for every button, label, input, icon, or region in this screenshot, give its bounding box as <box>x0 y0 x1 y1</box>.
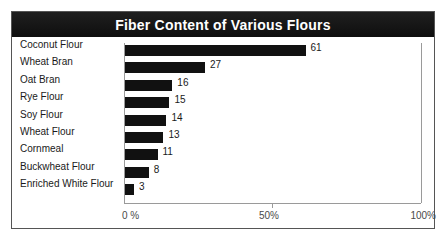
chart-title: Fiber Content of Various Flours <box>115 17 330 33</box>
bar-row: 13 <box>125 132 421 143</box>
bar <box>125 97 169 108</box>
plot-wrapper: Coconut FlourWheat BranOat BranRye Flour… <box>12 37 434 229</box>
bar <box>125 115 166 126</box>
bar-value-label: 8 <box>154 164 160 175</box>
x-axis-tick-label: 0 % <box>122 210 139 221</box>
category-label: Coconut Flour <box>20 39 83 50</box>
category-label: Cornmeal <box>20 143 63 154</box>
x-axis-tick <box>272 203 273 208</box>
bar-row: 8 <box>125 167 421 178</box>
category-label: Oat Bran <box>20 74 60 85</box>
bar <box>125 80 172 91</box>
x-axis-tick-label: 50% <box>259 210 279 221</box>
category-label: Wheat Flour <box>20 126 74 137</box>
bar-row: 3 <box>125 184 421 195</box>
x-axis-tick-label: 100% <box>410 210 436 221</box>
bar-value-label: 15 <box>174 94 185 105</box>
chart-frame: Fiber Content of Various Flours Coconut … <box>11 11 435 229</box>
bar-row: 11 <box>125 149 421 160</box>
category-label: Rye Flour <box>20 91 63 102</box>
bar <box>125 149 158 160</box>
bar-value-label: 11 <box>163 146 173 157</box>
plot-area: 6127161514131183 <box>124 43 421 204</box>
bar-value-label: 14 <box>171 112 182 123</box>
category-label: Enriched White Flour <box>20 178 113 189</box>
bar-value-label: 3 <box>139 181 145 192</box>
bar-value-label: 13 <box>168 129 179 140</box>
bar <box>125 62 205 73</box>
bar-row: 27 <box>125 62 421 73</box>
bar-row: 16 <box>125 80 421 91</box>
category-label: Wheat Bran <box>20 56 73 67</box>
bar <box>125 132 163 143</box>
bar-value-label: 61 <box>311 42 322 53</box>
chart-title-bar: Fiber Content of Various Flours <box>12 12 434 37</box>
bar <box>125 167 149 178</box>
bar-value-label: 27 <box>210 59 221 70</box>
bar-row: 15 <box>125 97 421 108</box>
category-label: Buckwheat Flour <box>20 161 94 172</box>
category-label: Soy Flour <box>20 109 63 120</box>
bar <box>125 184 134 195</box>
bar-row: 61 <box>125 45 421 56</box>
bar-value-label: 16 <box>177 77 188 88</box>
bar <box>125 45 306 56</box>
bar-row: 14 <box>125 115 421 126</box>
